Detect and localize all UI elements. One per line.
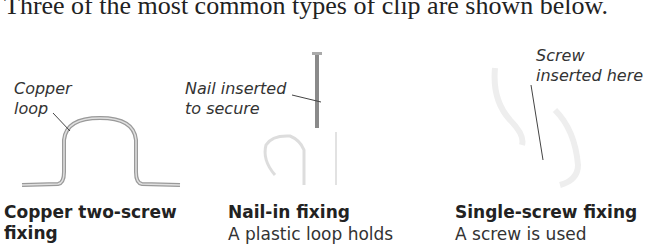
annotation-nail: Nail inserted to secure xyxy=(185,79,286,119)
annotation-screw: Screw inserted here xyxy=(536,46,643,86)
copper-loop-illustration xyxy=(22,113,180,185)
annotation-copper-loop: Copper loop xyxy=(14,79,72,119)
clip-title-copper: Copper two-screw fixing xyxy=(4,202,177,244)
clip-desc-nail: A plastic loop holds xyxy=(228,224,393,245)
clip-title-screw: Single-screw fixing xyxy=(455,202,637,223)
clip-title-nail: Nail-in fixing xyxy=(228,202,350,223)
clip-desc-screw: A screw is used xyxy=(455,224,586,245)
